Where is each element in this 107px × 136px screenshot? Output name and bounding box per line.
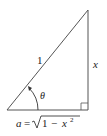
angle-arc: [29, 88, 38, 110]
opposite-label: x: [92, 58, 98, 70]
svg-text:2: 2: [70, 116, 74, 124]
right-triangle: [7, 10, 88, 110]
svg-text:x: x: [61, 117, 67, 129]
adjacent-label: a = 1 − x 2: [16, 116, 80, 129]
hypotenuse-label: 1: [37, 54, 43, 66]
svg-text:=: =: [24, 117, 30, 129]
right-angle-marker: [81, 103, 88, 110]
angle-label: θ: [40, 90, 45, 101]
svg-text:−: −: [51, 117, 57, 129]
triangle-diagram: 1 x θ a = 1 − x 2: [0, 0, 107, 136]
svg-text:a: a: [16, 117, 22, 129]
svg-text:1: 1: [42, 117, 48, 129]
